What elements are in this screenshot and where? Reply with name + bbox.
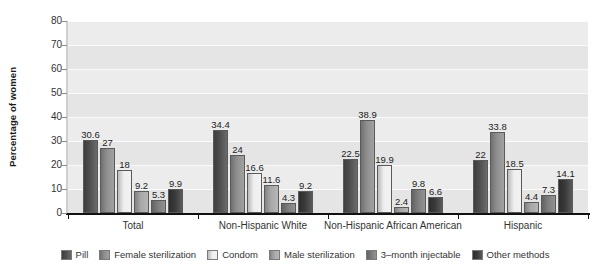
bar-value-label: 30.6 (81, 130, 100, 140)
bar-value-label: 22.5 (341, 149, 360, 159)
y-axis-tick-label: 30 (26, 135, 62, 147)
bar: 9.9 (168, 189, 184, 213)
bar: 18 (117, 170, 133, 213)
y-axis-tick-label: 50 (26, 87, 62, 99)
gridline (68, 21, 588, 22)
bar-chart: Percentage of women 80706050403020100 30… (0, 0, 610, 277)
bar: 9.8 (411, 189, 427, 213)
bar: 24 (230, 155, 246, 213)
y-axis-tick-label: 80 (26, 15, 62, 27)
legend-item-3-month-injectable[interactable]: 3–month injectable (366, 249, 461, 260)
bar-value-label: 4.4 (525, 192, 538, 202)
x-axis-group-tick (458, 213, 459, 219)
bar-value-label: 22 (475, 150, 486, 160)
bar: 30.6 (83, 140, 99, 213)
y-axis-tick-label: 20 (26, 159, 62, 171)
bar: 6.6 (428, 197, 444, 213)
bar: 9.2 (134, 191, 150, 213)
legend-label: Condom (222, 249, 258, 260)
y-axis-tick-label: 10 (26, 183, 62, 195)
legend-swatch-icon (472, 250, 483, 260)
gridline (68, 93, 588, 94)
bar: 16.6 (247, 173, 263, 213)
y-axis-tickmark (61, 213, 67, 214)
legend-swatch-icon (99, 250, 110, 260)
bar-value-label: 27 (102, 138, 113, 148)
bar-value-label: 9.2 (135, 181, 148, 191)
legend-item-other-methods[interactable]: Other methods (472, 249, 550, 260)
y-axis-tickmark (61, 117, 67, 118)
bar: 7.3 (541, 195, 557, 213)
bar: 27 (100, 148, 116, 213)
bar: 4.4 (524, 202, 540, 213)
x-axis-group-label: Hispanic (504, 219, 542, 232)
y-axis-tick-labels: 80706050403020100 (26, 14, 62, 214)
bar: 22.5 (343, 159, 359, 213)
y-axis-tickmark (61, 189, 67, 190)
bar-value-label: 5.3 (152, 190, 165, 200)
bar: 9.2 (298, 191, 314, 213)
bar: 22 (473, 160, 489, 213)
bar-value-label: 9.9 (169, 179, 182, 189)
legend-label: Pill (76, 249, 89, 260)
bar-value-label: 38.9 (358, 110, 377, 120)
legend-swatch-icon (61, 250, 72, 260)
bar: 19.9 (377, 165, 393, 213)
bar: 14.1 (558, 179, 574, 213)
y-axis-tickmark (61, 93, 67, 94)
y-axis-tickmark (61, 141, 67, 142)
bar-value-label: 16.6 (245, 163, 264, 173)
bar: 4.3 (281, 203, 297, 213)
x-axis-group-tick (198, 213, 199, 219)
legend-item-female-sterilization[interactable]: Female sterilization (99, 249, 196, 260)
y-axis-tick-label: 60 (26, 63, 62, 75)
bar-value-label: 14.1 (556, 169, 575, 179)
legend-item-condom[interactable]: Condom (207, 249, 258, 260)
y-axis-tickmark (61, 165, 67, 166)
y-axis-tickmark (61, 69, 67, 70)
legend-label: Female sterilization (114, 249, 196, 260)
plot-band (68, 93, 588, 117)
gridline (68, 45, 588, 46)
y-axis-tickmark (61, 45, 67, 46)
bar-value-label: 2.4 (395, 197, 408, 207)
y-axis-tick-label: 40 (26, 111, 62, 123)
y-axis-title: Percentage of women (4, 2, 22, 232)
gridline (68, 141, 588, 142)
bar-value-label: 7.3 (542, 185, 555, 195)
chart-legend: PillFemale sterilizationCondomMale steri… (0, 249, 610, 260)
bar-value-label: 9.2 (299, 181, 312, 191)
x-axis-group-label: Non-Hispanic African American (324, 219, 462, 232)
bar-value-label: 4.3 (282, 193, 295, 203)
legend-item-pill[interactable]: Pill (61, 249, 89, 260)
x-axis-edge-tick (68, 213, 69, 219)
bar-value-label: 11.6 (263, 175, 281, 185)
bar-value-label: 18.5 (505, 159, 524, 169)
bar: 18.5 (507, 169, 523, 213)
y-axis-tickmark (61, 21, 67, 22)
plot-band (68, 45, 588, 69)
bar-value-label: 9.8 (412, 179, 425, 189)
legend-label: Other methods (487, 249, 550, 260)
bar-value-label: 33.8 (488, 122, 507, 132)
legend-swatch-icon (366, 250, 377, 260)
bar-value-label: 18 (119, 160, 130, 170)
x-axis-edge-tick (588, 213, 589, 219)
legend-label: Male sterilization (284, 249, 355, 260)
x-axis-group-label: Total (122, 219, 143, 232)
y-axis-tick-label: 70 (26, 39, 62, 51)
legend-swatch-icon (269, 250, 280, 260)
legend-label: 3–month injectable (381, 249, 461, 260)
y-axis-tick-label: 0 (26, 207, 62, 219)
bar: 34.4 (213, 130, 229, 213)
bar-value-label: 6.6 (429, 187, 442, 197)
bar-value-label: 24 (232, 145, 243, 155)
gridline (68, 117, 588, 118)
bar: 5.3 (151, 200, 167, 213)
gridline (68, 69, 588, 70)
x-axis-group-label: Non-Hispanic White (219, 219, 307, 232)
plot-band (68, 21, 588, 45)
legend-item-male-sterilization[interactable]: Male sterilization (269, 249, 355, 260)
bar: 33.8 (490, 132, 506, 213)
bar: 38.9 (360, 120, 376, 213)
